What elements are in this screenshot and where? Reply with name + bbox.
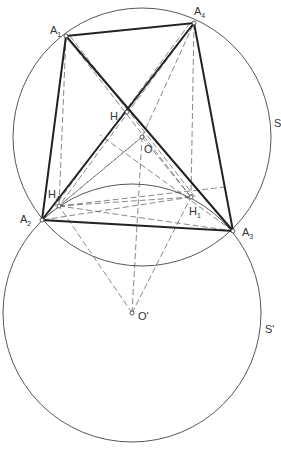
construction-lines — [42, 23, 233, 313]
point-markers — [40, 21, 235, 315]
label-circle-s: S — [274, 117, 281, 129]
label-a4: A4 — [194, 5, 205, 19]
label-a3: A3 — [242, 226, 253, 240]
label-a2: A2 — [20, 213, 31, 227]
label-o-prime: O' — [138, 310, 149, 322]
label-h: H — [110, 110, 118, 122]
label-a1: A1 — [50, 24, 61, 38]
geometry-diagram: A1 A4 A2 A3 H O H1 H4 O' S S' — [0, 0, 281, 454]
label-h1: H1 — [189, 205, 201, 219]
label-h4: H4 — [48, 188, 60, 202]
label-circle-s-prime: S' — [265, 323, 274, 335]
label-o: O — [144, 143, 153, 155]
